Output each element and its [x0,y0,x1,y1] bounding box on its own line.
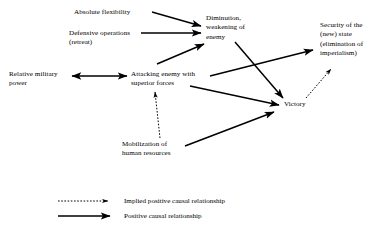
causal-diagram: Absolute flexibilityDefensive operations… [0,0,377,239]
legend-label-positive: Positive causal relationship [124,212,202,221]
legend-label-implied-positive: Implied positive causal relationship [124,197,225,206]
edge-attacking-to-victory [190,86,279,105]
node-mobilization: Mobilization of human resources [122,140,171,159]
edge-mobilization-to-attacking [155,92,160,138]
node-security_of_state: Security of the (new) state (elimination… [320,21,363,59]
node-victory: Victory [284,100,306,109]
edge-attacking-to-diminution [157,44,204,64]
edge-mobilization-to-victory [185,112,274,146]
legend-lines-group [58,201,110,216]
edge-diminution-to-victory [235,42,283,98]
node-defensive_operations: Defensive operations (retreat) [69,29,130,48]
edge-victory-to-security [306,69,331,98]
node-diminution: Diminution, weakening of enemy [206,14,245,42]
node-relative_military_power: Relative military power [9,70,58,89]
edge-flexibility-to-diminution [152,12,201,26]
node-attacking_enemy: Attacking enemy with superior forces [131,70,195,89]
node-absolute_flexibility: Absolute flexibility [74,8,130,17]
